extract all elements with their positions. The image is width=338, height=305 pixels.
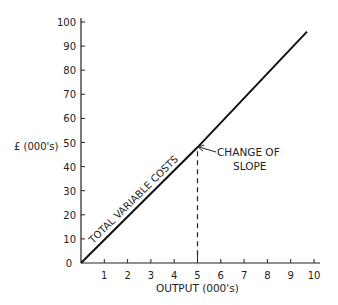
x-tick-label: 2 <box>124 270 130 281</box>
x-tick-label: 8 <box>264 270 270 281</box>
y-tick-label: 60 <box>63 113 76 124</box>
x-tick-label: 7 <box>241 270 247 281</box>
y-tick-label: 40 <box>63 162 76 173</box>
chart: 102030405060708090100 12345678910 0 TOTA… <box>0 0 338 305</box>
y-tick-label: 90 <box>63 41 76 52</box>
x-ticks: 12345678910 <box>101 255 320 281</box>
x-tick-label: 1 <box>101 270 107 281</box>
y-tick-label: 20 <box>63 210 76 221</box>
y-tick-label: 30 <box>63 186 76 197</box>
y-tick-label: 50 <box>63 138 76 149</box>
y-tick-label: 10 <box>63 234 76 245</box>
x-tick-label: 4 <box>171 270 177 281</box>
x-tick-label: 6 <box>218 270 224 281</box>
x-axis-label: OUTPUT (000's) <box>156 282 239 294</box>
x-tick-label: 3 <box>148 270 154 281</box>
x-tick-label: 10 <box>308 270 321 281</box>
annotation-line2: SLOPE <box>233 160 266 172</box>
x-tick-label: 9 <box>288 270 294 281</box>
x-tick-label: 5 <box>194 270 200 281</box>
y-tick-label: 100 <box>57 17 76 28</box>
origin-label: 0 <box>66 258 72 269</box>
y-tick-label: 70 <box>63 89 76 100</box>
series-label: TOTAL VARIABLE COSTS <box>86 153 180 246</box>
annotation-line1: CHANGE OF <box>217 146 280 158</box>
y-tick-label: 80 <box>63 65 76 76</box>
y-axis-label: £ (000's) <box>14 141 58 152</box>
